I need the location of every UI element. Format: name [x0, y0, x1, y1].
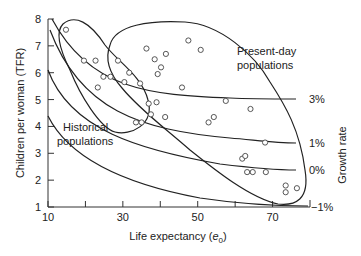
y-tick-label: 2 — [35, 174, 41, 186]
growth-label-0pct: 0% — [309, 164, 325, 176]
y-tick-label: 5 — [35, 94, 41, 106]
x-tick-label: 30 — [117, 211, 129, 223]
data-point — [211, 114, 216, 119]
growth-curve-0pct — [48, 70, 296, 170]
data-point — [283, 190, 288, 195]
data-point — [115, 58, 120, 63]
data-point — [63, 27, 68, 32]
data-point — [154, 100, 159, 105]
x-axis-label: Life expectancy (e0) — [129, 230, 226, 245]
y-axis-ticks: 12345678 — [35, 13, 54, 213]
data-point — [245, 169, 250, 174]
right-axis-label: Growth rate — [336, 126, 348, 183]
growth-label-1pct: 1% — [309, 137, 325, 149]
y-tick-label: 1 — [35, 201, 41, 213]
data-point — [101, 74, 106, 79]
y-axis-label: Children per woman (TFR) — [14, 48, 26, 178]
data-point — [93, 58, 98, 63]
data-point — [248, 106, 253, 111]
data-point — [243, 153, 248, 158]
y-tick-label: 8 — [35, 13, 41, 25]
data-point — [122, 80, 127, 85]
historical-label-line1: Historical — [63, 121, 108, 133]
x-tick-label: 50 — [192, 211, 204, 223]
growth-label-neg1pct: −1% — [311, 201, 334, 213]
data-point — [223, 98, 228, 103]
data-point — [139, 120, 144, 125]
data-point — [81, 58, 86, 63]
data-point — [283, 183, 288, 188]
historical-label-line2: populations — [57, 135, 114, 147]
y-tick-label: 4 — [35, 120, 41, 132]
present-day-label-line2: populations — [237, 59, 294, 71]
data-point — [127, 70, 132, 75]
data-point — [158, 65, 163, 70]
data-point — [152, 57, 157, 62]
data-point — [294, 186, 299, 191]
data-point — [137, 81, 142, 86]
data-point — [108, 74, 113, 79]
data-point — [155, 71, 160, 76]
data-point — [250, 169, 255, 174]
data-point — [186, 38, 191, 43]
data-point — [133, 120, 138, 125]
data-point — [146, 101, 151, 106]
tfr-vs-life-expectancy-chart: 12345678 10305070 Historical populations… — [0, 0, 361, 256]
data-point — [163, 114, 168, 119]
data-point — [163, 51, 168, 56]
data-point — [263, 169, 268, 174]
x-tick-label: 10 — [42, 211, 54, 223]
y-tick-label: 6 — [35, 67, 41, 79]
x-axis-ticks: 10305070 — [42, 201, 279, 223]
x-tick-label: 70 — [266, 211, 278, 223]
growth-label-3pct: 3% — [309, 93, 325, 105]
data-point — [262, 140, 267, 145]
data-point — [148, 112, 153, 117]
chart-container: 12345678 10305070 Historical populations… — [0, 0, 361, 256]
y-tick-label: 7 — [35, 40, 41, 52]
y-tick-label: 3 — [35, 147, 41, 159]
data-point — [198, 47, 203, 52]
present-day-label-line1: Present-day — [237, 45, 297, 57]
data-point — [95, 85, 100, 90]
data-point — [144, 46, 149, 51]
data-point — [179, 85, 184, 90]
data-point — [206, 120, 211, 125]
